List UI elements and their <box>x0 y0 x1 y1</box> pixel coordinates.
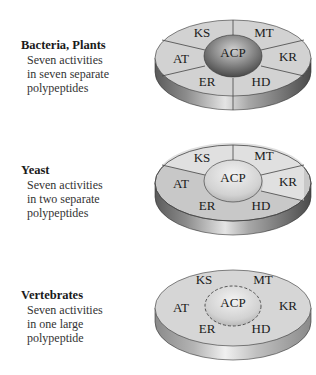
domain-mt: MT <box>254 148 274 163</box>
organism-title: Bacteria, Plants <box>21 38 109 53</box>
domain-acp: ACP <box>220 295 245 310</box>
domain-er: ER <box>199 198 216 213</box>
fas-disc-one-polypeptide: ACP KS MT AT KR ER HD <box>150 250 316 375</box>
fas-disc-two-polypeptides: ACP KS MT AT KR ER HD <box>150 125 316 250</box>
domain-mt: MT <box>253 272 273 287</box>
organism-title: Yeast <box>21 163 103 178</box>
panel-vertebrates: Vertebrates Seven activities in one larg… <box>0 250 316 375</box>
domain-acp: ACP <box>220 170 245 185</box>
domain-kr: KR <box>279 49 297 64</box>
organism-label: Yeast Seven activities in two separate p… <box>21 163 103 220</box>
domain-mt: MT <box>254 25 274 40</box>
domain-kr: KR <box>279 174 297 189</box>
domain-ks: KS <box>196 272 213 287</box>
organism-desc-line: Seven activities <box>27 54 109 67</box>
domain-hd: HD <box>252 74 271 89</box>
organism-desc-line: in one large <box>27 318 103 331</box>
organism-desc-line: polypeptides <box>27 207 103 220</box>
organism-title: Vertebrates <box>21 288 103 303</box>
domain-at: AT <box>173 300 189 315</box>
organism-desc-line: Seven activities <box>27 304 103 317</box>
organism-desc-line: polypeptides <box>27 82 109 95</box>
organism-desc-line: Seven activities <box>27 179 103 192</box>
organism-label: Vertebrates Seven activities in one larg… <box>21 288 103 345</box>
panel-yeast: Yeast Seven activities in two separate p… <box>0 125 316 250</box>
organism-desc-line: polypeptide <box>27 332 103 345</box>
panel-bacteria-plants: Bacteria, Plants Seven activities in sev… <box>0 0 316 125</box>
domain-acp: ACP <box>220 45 245 60</box>
domain-hd: HD <box>252 321 271 336</box>
organism-label: Bacteria, Plants Seven activities in sev… <box>21 38 109 95</box>
domain-hd: HD <box>252 198 271 213</box>
domain-at: AT <box>173 51 189 66</box>
domain-ks: KS <box>194 150 211 165</box>
domain-er: ER <box>199 74 216 89</box>
domain-er: ER <box>199 321 216 336</box>
organism-desc-line: in seven separate <box>27 68 109 81</box>
domain-kr: KR <box>279 298 297 313</box>
fas-disc-seven-polypeptides: ACP KS MT AT KR ER HD <box>150 0 316 125</box>
domain-ks: KS <box>194 25 211 40</box>
domain-at: AT <box>173 176 189 191</box>
organism-desc-line: in two separate <box>27 193 103 206</box>
